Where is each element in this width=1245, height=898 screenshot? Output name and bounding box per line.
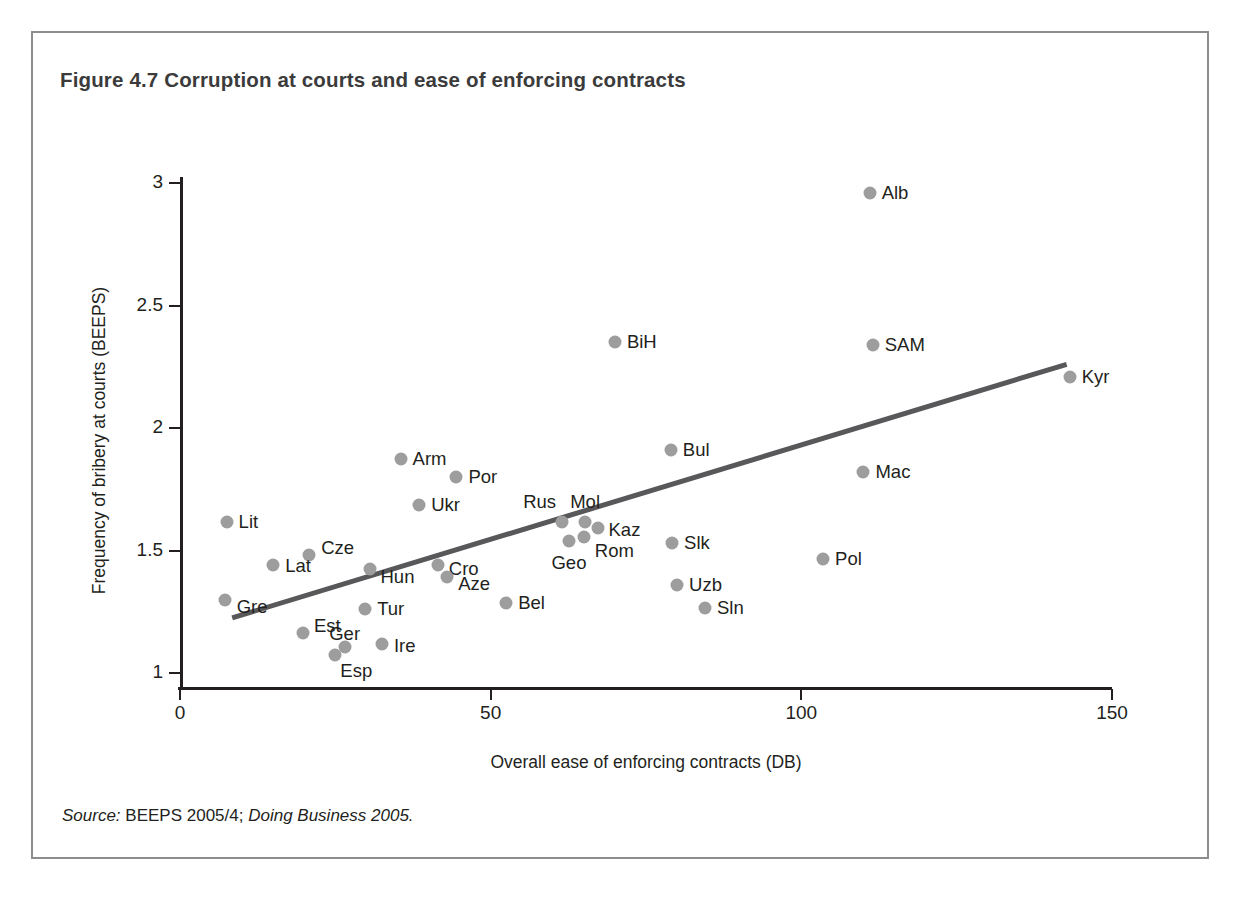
- data-point-sam[interactable]: [866, 338, 879, 351]
- point-label-geo: Geo: [551, 552, 586, 574]
- y-axis-tick-label: 1.5: [137, 539, 163, 561]
- point-label-alb: Alb: [882, 182, 909, 204]
- point-label-slk: Slk: [684, 532, 710, 554]
- data-point-cro[interactable]: [431, 559, 444, 572]
- data-point-kyr[interactable]: [1063, 370, 1076, 383]
- point-label-esp: Esp: [340, 660, 372, 682]
- point-label-ire: Ire: [394, 635, 416, 657]
- y-axis-tick: [169, 305, 180, 307]
- y-axis-tick: [169, 182, 180, 184]
- data-point-est[interactable]: [297, 626, 310, 639]
- point-label-tur: Tur: [377, 598, 404, 620]
- point-label-cze: Cze: [321, 537, 354, 559]
- data-point-lat[interactable]: [267, 559, 280, 572]
- data-point-gre[interactable]: [218, 593, 231, 606]
- x-axis-line: [178, 687, 1112, 690]
- data-point-kaz[interactable]: [591, 522, 604, 535]
- x-axis-tick-label: 150: [1096, 702, 1128, 724]
- point-label-kyr: Kyr: [1082, 366, 1110, 388]
- data-point-ukr[interactable]: [413, 499, 426, 512]
- y-axis-tick: [169, 672, 180, 674]
- data-point-bih[interactable]: [608, 336, 621, 349]
- data-point-bel[interactable]: [500, 597, 513, 610]
- point-label-sam: SAM: [885, 334, 925, 356]
- y-axis-tick-label: 2.5: [137, 294, 163, 316]
- point-label-arm: Arm: [413, 448, 447, 470]
- y-axis-tick: [169, 427, 180, 429]
- point-label-bel: Bel: [518, 592, 545, 614]
- source-text: BEEPS 2005/4;: [121, 806, 249, 825]
- data-point-rom[interactable]: [577, 531, 590, 544]
- point-label-rus: Rus: [523, 491, 556, 513]
- data-point-mac[interactable]: [857, 466, 870, 479]
- x-axis-tick-label: 50: [480, 702, 501, 724]
- data-point-mol[interactable]: [579, 516, 592, 529]
- data-point-arm[interactable]: [394, 452, 407, 465]
- point-label-gre: Gre: [237, 596, 268, 618]
- point-label-mol: Mol: [570, 491, 600, 513]
- point-label-lat: Lat: [285, 555, 311, 577]
- y-axis-title: Frequency of bribery at courts (BEEPS): [89, 231, 110, 651]
- point-label-mac: Mac: [875, 461, 910, 483]
- point-label-lit: Lit: [239, 511, 259, 533]
- point-label-sln: Sln: [717, 597, 744, 619]
- y-axis-tick-label: 3: [152, 171, 163, 193]
- point-label-aze: Aze: [458, 573, 490, 595]
- x-axis-tick-label: 100: [785, 702, 817, 724]
- point-label-ukr: Ukr: [431, 494, 460, 516]
- x-axis-title: Overall ease of enforcing contracts (DB): [180, 752, 1112, 773]
- x-axis-tick: [490, 689, 492, 700]
- point-label-uzb: Uzb: [689, 574, 722, 596]
- point-label-bih: BiH: [627, 331, 657, 353]
- data-point-bul[interactable]: [664, 444, 677, 457]
- point-label-kaz: Kaz: [609, 519, 641, 541]
- source-note: Source: BEEPS 2005/4; Doing Business 200…: [62, 806, 414, 826]
- point-label-hun: Hun: [381, 566, 415, 588]
- data-point-pol[interactable]: [817, 553, 830, 566]
- x-axis-tick: [179, 689, 181, 700]
- data-point-aze[interactable]: [441, 571, 454, 584]
- data-point-uzb[interactable]: [671, 578, 684, 591]
- point-label-rom: Rom: [595, 540, 634, 562]
- point-label-pol: Pol: [835, 548, 862, 570]
- data-point-ire[interactable]: [375, 637, 388, 650]
- y-axis-tick-label: 1: [152, 661, 163, 683]
- x-axis-tick: [800, 689, 802, 700]
- point-label-por: Por: [468, 466, 497, 488]
- source-italic-text: Doing Business 2005.: [248, 806, 413, 825]
- x-axis-tick-label: 0: [175, 702, 186, 724]
- data-point-sln[interactable]: [699, 602, 712, 615]
- data-point-tur[interactable]: [359, 603, 372, 616]
- data-point-slk[interactable]: [666, 537, 679, 550]
- source-label: Source:: [62, 806, 121, 825]
- y-axis-line: [180, 177, 183, 689]
- scatter-plot-area: 11.522.53050100150 AlbSAMKyrBiHBulMacArm…: [0, 0, 1245, 898]
- data-point-hun[interactable]: [363, 562, 376, 575]
- data-point-por[interactable]: [450, 471, 463, 484]
- data-point-geo[interactable]: [562, 534, 575, 547]
- data-point-lit[interactable]: [220, 516, 233, 529]
- data-point-alb[interactable]: [863, 186, 876, 199]
- x-axis-tick: [1111, 689, 1113, 700]
- point-label-ger: Ger: [329, 623, 360, 645]
- data-point-rus[interactable]: [556, 516, 569, 529]
- point-label-bul: Bul: [683, 439, 710, 461]
- y-axis-tick-label: 2: [152, 416, 163, 438]
- y-axis-tick: [169, 550, 180, 552]
